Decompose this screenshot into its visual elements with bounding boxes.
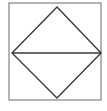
caption: [0, 101, 107, 111]
square-frame: [9, 3, 101, 100]
diamond-in-square-diagram: [0, 0, 107, 111]
